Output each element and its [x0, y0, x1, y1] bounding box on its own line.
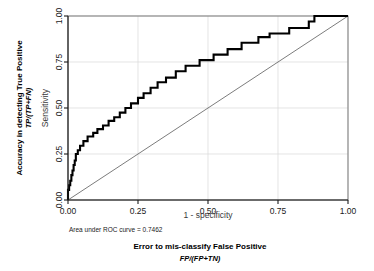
y-tick-label: 0.75 — [54, 53, 64, 70]
y-axis-ticks: 0.000.250.500.751.00 — [54, 7, 68, 208]
outer-y-label-line1: Accuracy in detecting True Positive — [15, 40, 24, 176]
y-tick-label: 0.50 — [54, 99, 64, 116]
roc-plot-svg: 0.000.250.500.751.00 0.000.250.500.751.0… — [0, 0, 374, 271]
x-tick-label: 0.25 — [130, 206, 147, 216]
x-axis-title: 1 - specificity — [183, 210, 233, 220]
y-tick-label: 0.25 — [54, 145, 64, 162]
y-tick-label: 0.00 — [54, 191, 64, 208]
outer-y-label-line2: TP/(TP+FN) — [24, 87, 33, 128]
auc-annotation: Area under ROC curve = 0.7462 — [69, 226, 163, 233]
x-tick-label: 1.00 — [340, 206, 357, 216]
outer-x-label-line1: Error to mis-classify False Positive — [134, 242, 267, 251]
x-tick-label: 0.75 — [270, 206, 287, 216]
y-tick-label: 1.00 — [54, 7, 64, 24]
roc-chart-figure: 0.000.250.500.751.00 0.000.250.500.751.0… — [0, 0, 374, 271]
y-axis-title: Sensitivity — [40, 88, 50, 127]
outer-x-label-line2: FP/(FP+TN) — [180, 254, 221, 263]
